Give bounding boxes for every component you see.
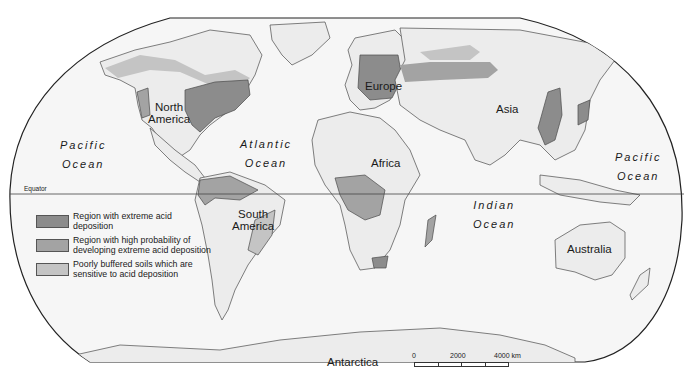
scale-bar: 0 2000 4000 km xyxy=(414,352,544,367)
equator-label: Equator xyxy=(24,185,47,192)
legend-item-high-probability: Region with high probability of developi… xyxy=(36,236,236,255)
label-pacific-ocean-east: Pacific Ocean xyxy=(615,148,661,186)
scale-tick-4000: 4000 km xyxy=(494,352,521,359)
legend-item-extreme: Region with extreme acid deposition xyxy=(36,212,236,231)
label-pacific-ocean-west: Pacific Ocean xyxy=(60,136,106,174)
swatch-high-probability xyxy=(36,239,69,252)
swatch-extreme xyxy=(36,215,69,228)
label-south-america: South America xyxy=(232,208,274,232)
world-map xyxy=(0,0,691,383)
label-europe: Europe xyxy=(365,80,402,92)
legend-item-sensitive-soils: Poorly buffered soils which are sensitiv… xyxy=(36,260,236,279)
africa-south-extreme xyxy=(372,256,388,268)
label-atlantic-ocean: Atlantic Ocean xyxy=(240,135,292,173)
label-africa: Africa xyxy=(371,157,400,169)
scale-bar-graphic xyxy=(414,362,509,367)
label-australia: Australia xyxy=(567,243,612,255)
label-north-america: North America xyxy=(148,101,190,125)
label-antarctica: Antarctica xyxy=(327,356,378,368)
label-indian-ocean: Indian Ocean xyxy=(473,196,515,234)
label-asia: Asia xyxy=(496,103,518,115)
scale-tick-2000: 2000 xyxy=(450,352,466,359)
scale-tick-0: 0 xyxy=(412,352,416,359)
legend: Region with extreme acid deposition Regi… xyxy=(36,212,236,284)
swatch-sensitive-soils xyxy=(36,263,69,276)
